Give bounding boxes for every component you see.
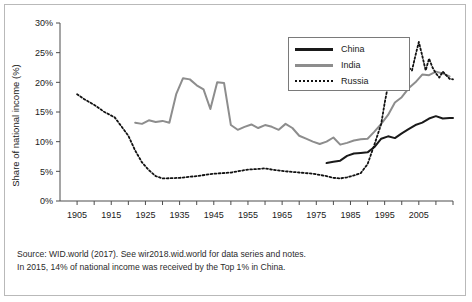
x-tick-label: 1945 [204,210,224,220]
legend-label-russia: Russia [341,76,369,86]
chart-footnote: Source: WID.world (2017). See wir2018.wi… [17,248,447,273]
legend-item-russia: Russia [295,73,369,89]
y-tick-label: 15% [35,107,53,117]
y-tick-label: 10% [35,137,53,147]
x-tick-label: 1915 [101,210,121,220]
y-tick-label: 25% [35,48,53,58]
footnote-line-1: Source: WID.world (2017). See wir2018.wi… [17,248,447,261]
x-tick-label: 1935 [170,210,190,220]
legend-item-china: China [295,41,365,57]
x-tick-label: 2005 [409,210,429,220]
x-tick-label: 1925 [135,210,155,220]
x-tick-label: 1995 [375,210,395,220]
x-tick-label: 1985 [340,210,360,220]
legend-label-china: China [341,44,365,54]
y-axis-title-text: Share of national income (%) [10,64,21,187]
y-tick-label: 20% [35,78,53,88]
legend-swatch-india [295,60,333,70]
footnote-line-2: In 2015, 14% of national income was rece… [17,261,447,274]
legend-swatch-china [295,44,333,54]
y-axis-title: Share of national income (%) [7,45,23,205]
chart-card: Share of national income (%) 0%5%10%15%2… [4,4,466,296]
legend-label-india: India [341,60,361,70]
y-tick-label: 5% [40,167,53,177]
series-line-china [327,116,453,163]
x-tick-label: 1975 [306,210,326,220]
chart-legend: China India Russia [288,37,410,91]
y-tick-label: 30% [35,18,53,28]
x-tick-label: 1965 [272,210,292,220]
legend-item-india: India [295,57,361,73]
x-tick-label: 1955 [238,210,258,220]
legend-swatch-russia [295,76,333,86]
x-tick-label: 1905 [67,210,87,220]
y-tick-label: 0% [40,196,53,206]
